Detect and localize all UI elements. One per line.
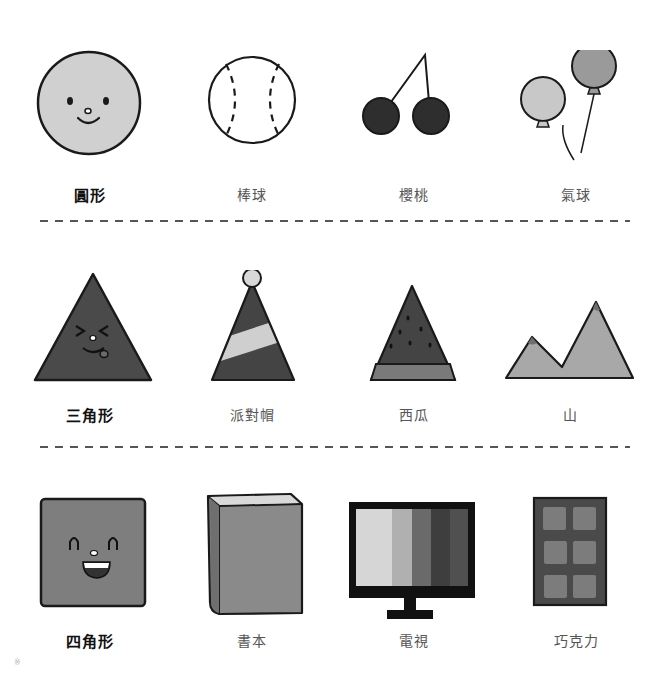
- label-tv: 電視: [344, 630, 484, 650]
- circle-face-icon: [20, 50, 160, 190]
- label-watermelon: 西瓜: [344, 404, 484, 424]
- tv-icon: [344, 492, 484, 632]
- shapes-worksheet: 圓形 棒球 櫻桃 氣球: [0, 0, 664, 673]
- label-triangle: 三角形: [20, 404, 160, 425]
- party-hat-icon: [182, 270, 322, 410]
- label-book: 書本: [182, 630, 322, 650]
- dashed-divider: [40, 444, 630, 450]
- book-icon: [182, 492, 322, 632]
- corner-mark: ※: [14, 658, 21, 667]
- dashed-divider: [40, 218, 630, 224]
- label-chocolate: 巧克力: [506, 630, 646, 650]
- mountains-icon: [500, 270, 640, 410]
- watermelon-icon: [344, 270, 484, 410]
- label-party-hat: 派對帽: [182, 404, 322, 424]
- square-face-icon: [20, 492, 160, 632]
- label-square: 四角形: [20, 630, 160, 651]
- label-circle: 圓形: [20, 184, 160, 205]
- label-cherries: 櫻桃: [344, 184, 484, 204]
- label-baseball: 棒球: [182, 184, 322, 204]
- label-mountains: 山: [500, 404, 640, 424]
- label-balloons: 氣球: [506, 184, 646, 204]
- baseball-icon: [182, 50, 322, 190]
- cherries-icon: [344, 50, 484, 190]
- triangle-face-icon: [20, 270, 160, 410]
- chocolate-icon: [506, 492, 646, 632]
- balloons-icon: [506, 50, 646, 190]
